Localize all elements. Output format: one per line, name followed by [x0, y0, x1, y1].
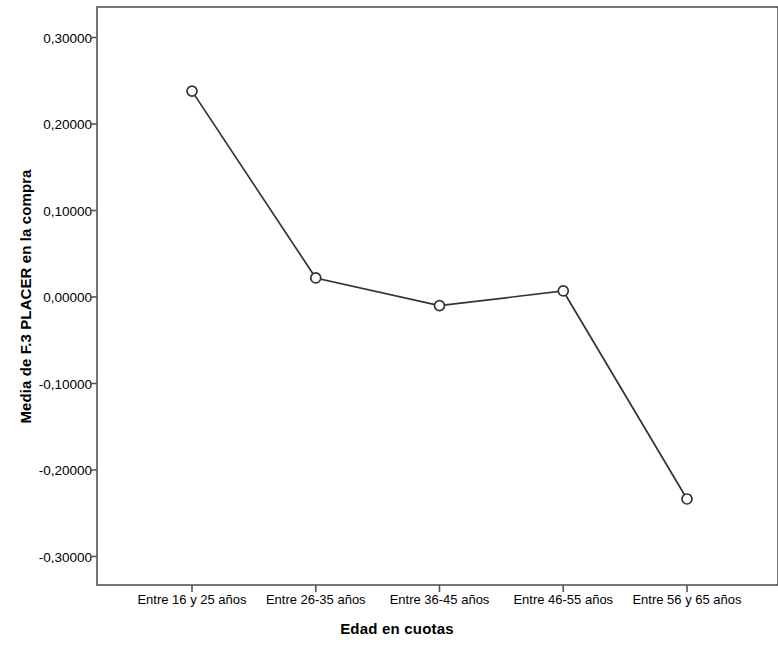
x-tick-label: Entre 46-55 años: [513, 592, 613, 607]
data-point-marker: [435, 301, 445, 311]
x-tick-label: Entre 26-35 años: [266, 592, 366, 607]
x-tick-label: Entre 36-45 años: [390, 592, 490, 607]
x-axis-title: Edad en cuotas: [97, 620, 697, 637]
data-point-marker: [311, 273, 321, 283]
plot-area: [0, 0, 778, 646]
data-point-marker: [558, 286, 568, 296]
data-point-marker: [187, 86, 197, 96]
x-tick-label: Entre 16 y 25 años: [137, 592, 246, 607]
x-tick-label: Entre 56 y 65 años: [632, 592, 741, 607]
plot-frame: [97, 7, 778, 585]
line-chart: Media de F.3 PLACER en la compra 0,30000…: [0, 0, 778, 646]
data-point-marker: [682, 494, 692, 504]
